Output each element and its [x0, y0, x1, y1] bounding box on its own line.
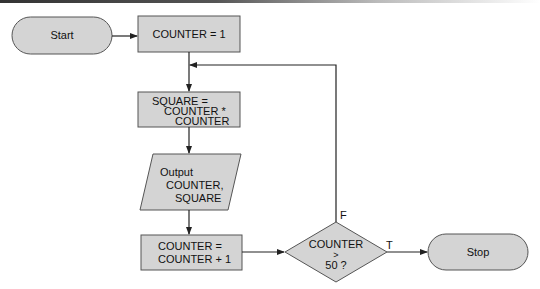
start-label: Start — [12, 29, 112, 42]
output-label-line3: SQUARE — [175, 192, 221, 205]
square-label-line3: COUNTER — [175, 115, 229, 128]
output-label-line2: COUNTER, — [166, 179, 223, 192]
false-branch-label: F — [340, 209, 347, 222]
increment-label-line2: COUNTER + 1 — [158, 253, 231, 266]
decision-label-line3: 50 ? — [296, 259, 376, 272]
true-branch-label: T — [386, 239, 393, 252]
output-label-line1: Output — [160, 166, 193, 179]
stop-label: Stop — [428, 246, 528, 259]
init-label: COUNTER = 1 — [138, 28, 240, 41]
increment-label-line1: COUNTER = — [158, 240, 222, 253]
flowchart-canvas: Start COUNTER = 1 SQUARE = COUNTER * COU… — [0, 0, 540, 289]
